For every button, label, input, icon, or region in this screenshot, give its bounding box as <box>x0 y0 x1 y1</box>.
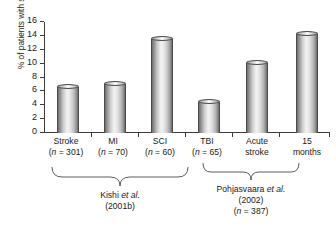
y-tick-8: 8 <box>40 77 44 78</box>
y-tick-label-16: 16 <box>27 15 37 26</box>
group-caption-line2: (2002) <box>201 195 301 206</box>
bar-cap-icon <box>198 99 220 104</box>
y-tick-14: 14 <box>40 35 44 36</box>
bar-mi[interactable] <box>104 84 126 133</box>
bar-tbi[interactable] <box>198 102 220 133</box>
category-name: 15 <box>277 136 336 147</box>
y-tick-label-14: 14 <box>27 29 37 40</box>
y-axis-label: % of patients with suicidal plan <box>17 0 26 74</box>
y-tick-label-6: 6 <box>32 84 37 95</box>
group-caption-line2: (2001b) <box>70 201 170 212</box>
bar-cap-icon <box>104 81 126 86</box>
y-tick-12: 12 <box>40 49 44 50</box>
group-caption-kishi: Kishi et al. (2001b) <box>70 190 170 212</box>
group-caption-line1: Kishi et al. <box>70 190 170 201</box>
bar-stroke[interactable] <box>57 87 79 133</box>
y-axis-line <box>44 22 45 133</box>
x-axis-line <box>44 132 330 133</box>
category-name-2: months <box>277 147 336 158</box>
bar-cap-icon <box>151 36 173 41</box>
y-tick-16: 16 <box>40 21 44 22</box>
bar-cap-icon <box>296 31 318 36</box>
brace-group-kishi <box>52 167 188 186</box>
plot-area: 0 2 4 6 8 10 12 14 16 <box>44 22 330 133</box>
bar-15-months[interactable] <box>296 34 318 133</box>
bar-cap-icon <box>246 60 268 65</box>
y-tick-4: 4 <box>40 104 44 105</box>
chart-figure: % of patients with suicidal plan 0 2 4 6… <box>0 0 336 232</box>
bar-acute-stroke[interactable] <box>246 63 268 133</box>
y-tick-2: 2 <box>40 118 44 119</box>
y-tick-label-2: 2 <box>32 112 37 123</box>
x-axis-category-labels: Stroke (n = 301) MI (n = 70) SCI (n = 60… <box>44 136 330 164</box>
group-caption-line1: Pohjasvaara et al. <box>201 184 301 195</box>
y-tick-label-10: 10 <box>27 57 37 68</box>
y-tick-label-12: 12 <box>27 43 37 54</box>
y-tick-label-8: 8 <box>32 71 37 82</box>
y-tick-10: 10 <box>40 63 44 64</box>
group-caption-line3: (n = 387) <box>201 206 301 217</box>
bar-sci[interactable] <box>151 39 173 133</box>
y-tick-6: 6 <box>40 90 44 91</box>
bar-cap-icon <box>57 84 79 89</box>
y-tick-label-4: 4 <box>32 98 37 109</box>
category-label-15-months: 15 months <box>277 136 336 158</box>
group-caption-pohjasvaara: Pohjasvaara et al. (2002) (n = 387) <box>201 184 301 217</box>
brace-group-pohjasvaara <box>203 163 299 180</box>
y-tick-0: 0 <box>40 132 44 133</box>
